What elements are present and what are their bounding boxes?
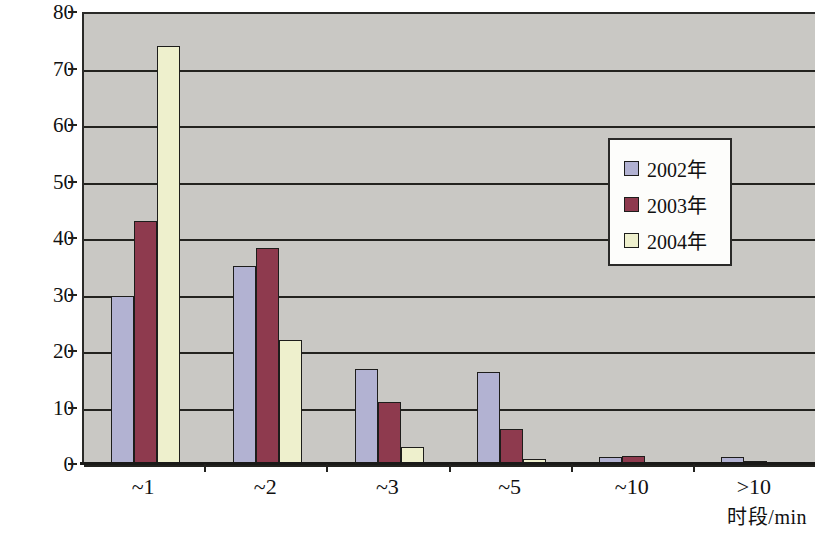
legend-item: 2002年 [624, 150, 730, 186]
legend-label: 2003年 [647, 190, 707, 219]
bar [355, 369, 378, 464]
x-axis-tick-mark [326, 464, 328, 472]
legend-label: 2002年 [647, 154, 707, 183]
bar [134, 221, 157, 464]
x-axis-line [80, 462, 815, 465]
legend-swatch-icon [624, 161, 639, 176]
bar [378, 402, 401, 464]
bar [279, 340, 302, 464]
legend-swatch-icon [624, 197, 639, 212]
bar [256, 248, 279, 464]
x-axis-tick-label: ~10 [572, 474, 692, 500]
bar [233, 266, 256, 464]
legend: 2002年2003年2004年 [608, 138, 732, 266]
x-axis-tick-label: ~1 [83, 474, 203, 500]
bar-chart: 构成比/% 01020304050607080 ~1~2~3~5~10>10 时… [0, 0, 815, 534]
legend-item: 2003年 [624, 186, 730, 222]
bar [157, 46, 180, 464]
gridline [84, 352, 815, 354]
x-axis-tick-label: ~3 [327, 474, 447, 500]
x-axis-tick-mark [693, 464, 695, 472]
legend-item: 2004年 [624, 222, 730, 258]
x-axis-tick-label: ~2 [205, 474, 325, 500]
gridline [84, 409, 815, 411]
gridline [84, 126, 815, 128]
y-axis-tick-mark [68, 294, 77, 296]
y-axis-tick-mark [68, 350, 77, 352]
y-axis: 01020304050607080 [0, 0, 74, 534]
gridline [84, 70, 815, 72]
legend-swatch-icon [624, 233, 639, 248]
y-axis-tick-mark [68, 237, 77, 239]
bar [477, 372, 500, 464]
y-axis-tick-mark [68, 68, 77, 70]
legend-label: 2004年 [647, 226, 707, 255]
x-axis-tick-label: ~5 [450, 474, 570, 500]
x-axis-tick-mark [571, 464, 573, 472]
y-axis-tick-mark [68, 181, 77, 183]
y-axis-tick-mark [68, 407, 77, 409]
x-axis-tick-mark [204, 464, 206, 472]
y-axis-tick-mark [68, 463, 77, 465]
bar [111, 296, 134, 464]
x-axis-tick-label: >10 [694, 474, 814, 500]
y-axis-tick-mark [68, 124, 77, 126]
x-axis-title: 时段/min [727, 501, 807, 530]
x-axis-tick-mark [449, 464, 451, 472]
y-axis-tick-mark [68, 11, 77, 13]
bar [500, 429, 523, 464]
gridline [84, 296, 815, 298]
